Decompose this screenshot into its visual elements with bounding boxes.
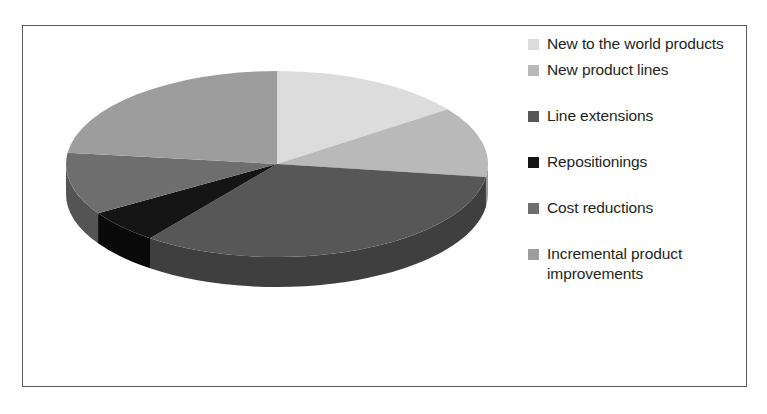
legend-swatch-new-to-the-world-products (528, 39, 539, 50)
legend-label-new-product-lines: New product lines (547, 60, 669, 80)
legend-item-new-product-lines[interactable]: New product lines (528, 60, 738, 80)
chart-area: New to the world products New product li… (0, 0, 767, 414)
pie-top-faces (66, 71, 488, 257)
pie-chart-3d (40, 40, 520, 360)
legend-label-repositionings: Repositionings (547, 152, 647, 172)
legend-label-incremental-product-improvements: Incremental product improvements (547, 244, 738, 284)
legend-swatch-cost-reductions (528, 203, 539, 214)
legend-item-repositionings[interactable]: Repositionings (528, 152, 738, 172)
legend-swatch-incremental-product-improvements (528, 249, 539, 260)
legend-item-cost-reductions[interactable]: Cost reductions (528, 198, 738, 218)
legend-item-line-extensions[interactable]: Line extensions (528, 106, 738, 126)
legend-label-cost-reductions: Cost reductions (547, 198, 653, 218)
legend-label-line-extensions: Line extensions (547, 106, 653, 126)
chart-legend: New to the world products New product li… (528, 34, 738, 286)
legend-item-incremental-product-improvements[interactable]: Incremental product improvements (528, 244, 738, 284)
legend-label-new-to-the-world-products: New to the world products (547, 34, 724, 54)
figure-canvas: New to the world products New product li… (0, 0, 767, 414)
legend-swatch-new-product-lines (528, 65, 539, 76)
legend-swatch-repositionings (528, 157, 539, 168)
legend-item-new-to-the-world-products[interactable]: New to the world products (528, 34, 738, 54)
legend-swatch-line-extensions (528, 111, 539, 122)
pie-slice-incremental-product-improvements[interactable] (68, 71, 277, 164)
